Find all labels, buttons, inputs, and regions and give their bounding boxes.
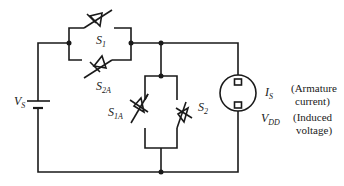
note-armature-line1: (Armature [291,82,337,95]
dc-motor-icon [220,75,256,111]
thyristor-s2a-icon [84,56,112,78]
battery-symbol [27,101,50,108]
thyristor-s2-icon [176,102,192,128]
label-vs: VS [14,94,25,110]
wires [38,28,238,172]
circuit-diagram: S1 S2A S1A S2 VS IS VDD (Armature curren… [0,0,344,186]
note-induced-line1: (Induced [293,111,333,124]
thyristor-s1-icon [84,10,112,28]
label-s2a: S2A [96,79,111,95]
thyristor-s1a-icon [130,94,148,123]
label-s1: S1 [96,33,106,49]
label-vdd: VDD [261,111,280,127]
note-armature-line2: current) [295,95,330,108]
label-s2: S2 [198,100,208,116]
label-s1a: S1A [108,105,123,121]
label-is: IS [264,85,273,101]
note-induced-line2: voltage) [296,124,332,137]
